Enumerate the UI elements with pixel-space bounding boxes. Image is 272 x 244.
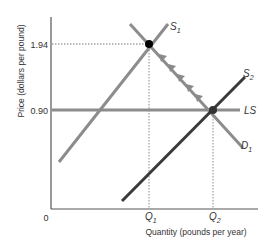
s2-line [122,77,245,201]
y-tick-1-94: 1.94 [30,40,48,50]
x-axis-title: Quantity (pounds per year) [145,227,246,237]
initial-equilibrium-point [145,40,153,48]
s1-label: S1 [170,21,181,34]
origin-label: 0 [43,213,48,223]
x-tick-q2: Q2 [209,211,221,224]
y-tick-0-90: 0.90 [30,106,48,116]
d1-label: D1 [241,140,252,153]
ls-label: LS [244,105,257,116]
chart: S1 S2 LS D1 1.94 0.90 0 Q1 Q2 Quantity (… [0,0,272,244]
y-axis-title: Price (dollars per pound) [16,24,26,117]
x-tick-q1: Q1 [145,211,157,224]
new-equilibrium-point [209,106,217,114]
